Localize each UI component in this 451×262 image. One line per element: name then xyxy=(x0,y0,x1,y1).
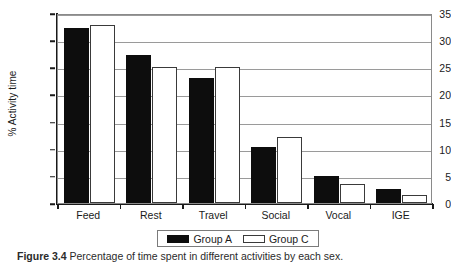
bar-travel-group-a xyxy=(189,78,214,203)
y-tick-mark xyxy=(50,176,55,178)
bar-feed-group-a xyxy=(64,28,89,203)
x-tick-mark xyxy=(120,204,122,209)
bar-chart: % Activity time 05101520253035 FeedRestT… xyxy=(0,0,451,226)
x-tick-mark xyxy=(245,204,247,209)
x-tick-label-social: Social xyxy=(261,209,290,221)
plot-area xyxy=(57,14,432,204)
bar-social-group-c xyxy=(277,137,302,203)
x-tick-mark xyxy=(182,204,184,209)
legend-entry-group-a: Group A xyxy=(167,233,232,245)
legend-swatch-icon xyxy=(243,235,265,243)
bar-ige-group-a xyxy=(376,189,401,203)
bar-rest-group-a xyxy=(126,55,151,203)
legend-label: Group C xyxy=(269,233,309,245)
bar-vocal-group-c xyxy=(340,184,365,203)
y-tick-mark xyxy=(50,68,55,70)
legend-swatch-icon xyxy=(167,235,189,243)
bar-travel-group-c xyxy=(215,67,240,203)
bar-rest-group-c xyxy=(152,67,177,203)
x-tick-label-travel: Travel xyxy=(199,209,228,221)
x-tick-label-vocal: Vocal xyxy=(325,209,351,221)
legend: Group AGroup C xyxy=(157,230,319,247)
x-tick-label-ige: IGE xyxy=(392,209,410,221)
y-tick-mark xyxy=(50,122,55,124)
bar-vocal-group-a xyxy=(314,176,339,203)
bar-social-group-a xyxy=(251,147,276,203)
y-tick-mark xyxy=(50,95,55,97)
legend-entry-group-c: Group C xyxy=(243,233,309,245)
bar-feed-group-c xyxy=(90,25,115,203)
x-tick-label-rest: Rest xyxy=(140,209,162,221)
x-tick-mark xyxy=(370,204,372,209)
y-tick-mark xyxy=(50,203,55,205)
caption-text: Percentage of time spent in different ac… xyxy=(70,250,344,262)
legend-label: Group A xyxy=(193,233,232,245)
bar-series-group xyxy=(58,15,431,203)
y-tick-mark xyxy=(50,13,55,15)
x-tick-mark xyxy=(432,204,434,209)
x-tick-mark xyxy=(57,204,59,209)
bar-ige-group-c xyxy=(402,195,427,203)
y-axis-label: % Activity time xyxy=(7,24,18,184)
y-tick-mark xyxy=(50,40,55,42)
y-tick-mark xyxy=(50,149,55,151)
x-tick-label-feed: Feed xyxy=(76,209,100,221)
x-tick-mark xyxy=(307,204,309,209)
caption-figure-number: Figure 3.4 xyxy=(17,250,67,262)
figure-caption: Figure 3.4 Percentage of time spent in d… xyxy=(17,250,437,262)
